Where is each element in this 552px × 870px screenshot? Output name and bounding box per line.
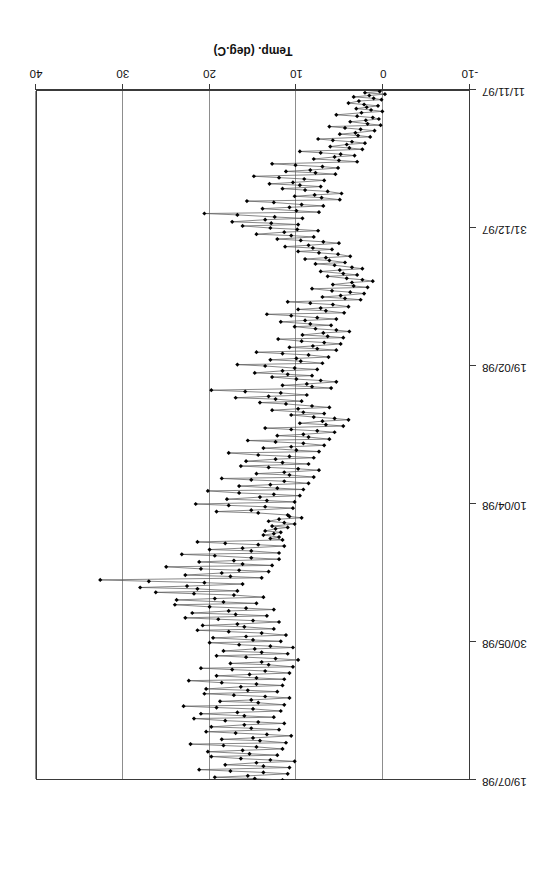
data-point bbox=[306, 435, 310, 439]
data-point bbox=[282, 677, 286, 681]
data-point bbox=[194, 502, 198, 506]
data-point bbox=[234, 396, 238, 400]
data-point bbox=[249, 508, 253, 512]
temperature-tick-label: 20 bbox=[190, 68, 230, 80]
data-point bbox=[273, 527, 277, 531]
data-point bbox=[330, 247, 334, 251]
data-point bbox=[303, 257, 307, 261]
data-point bbox=[359, 127, 363, 131]
data-point bbox=[230, 668, 234, 672]
data-point bbox=[324, 309, 328, 313]
data-point bbox=[360, 278, 364, 282]
data-point bbox=[201, 623, 205, 627]
data-point bbox=[322, 340, 326, 344]
data-point bbox=[306, 353, 310, 357]
date-tick-label: 11/11/97 bbox=[482, 86, 552, 98]
data-point bbox=[256, 543, 260, 547]
data-point bbox=[232, 558, 236, 562]
data-point bbox=[277, 620, 281, 624]
data-point bbox=[254, 761, 258, 765]
data-point bbox=[277, 557, 281, 561]
data-point bbox=[138, 585, 142, 589]
data-point bbox=[287, 696, 291, 700]
data-point bbox=[341, 271, 345, 275]
data-point bbox=[291, 645, 295, 649]
data-point bbox=[267, 519, 271, 523]
data-point bbox=[287, 765, 291, 769]
data-point bbox=[299, 359, 303, 363]
data-point bbox=[261, 446, 265, 450]
data-point bbox=[319, 151, 323, 155]
chart-figure: -10010203040 11/11/9731/12/9719/02/9810/… bbox=[0, 0, 552, 870]
data-point bbox=[372, 129, 376, 133]
data-point bbox=[337, 241, 341, 245]
data-point bbox=[218, 699, 222, 703]
data-point bbox=[347, 329, 351, 333]
data-point bbox=[245, 199, 249, 203]
data-point bbox=[98, 578, 102, 582]
data-point bbox=[301, 487, 305, 491]
data-point bbox=[315, 316, 319, 320]
data-point bbox=[362, 102, 366, 106]
data-point bbox=[319, 306, 323, 310]
data-point bbox=[263, 505, 267, 509]
data-point bbox=[377, 117, 381, 121]
data-point bbox=[272, 492, 276, 496]
data-point bbox=[357, 99, 361, 103]
data-point bbox=[286, 772, 290, 776]
data-point bbox=[310, 287, 314, 291]
data-point bbox=[223, 763, 227, 767]
data-point bbox=[332, 263, 336, 267]
data-point bbox=[242, 625, 246, 629]
date-tick bbox=[469, 365, 476, 366]
data-point bbox=[199, 567, 203, 571]
data-point bbox=[313, 327, 317, 331]
data-point bbox=[256, 453, 260, 457]
data-point bbox=[295, 227, 299, 231]
data-point bbox=[336, 166, 340, 170]
data-point bbox=[369, 108, 373, 112]
data-point bbox=[237, 643, 241, 647]
data-point bbox=[251, 619, 255, 623]
data-point bbox=[240, 546, 244, 550]
data-point bbox=[286, 652, 290, 656]
data-point bbox=[197, 560, 201, 564]
data-point bbox=[319, 378, 323, 382]
data-point bbox=[315, 429, 319, 433]
data-point bbox=[195, 587, 199, 591]
data-point bbox=[330, 289, 334, 293]
data-point bbox=[328, 144, 332, 148]
data-point bbox=[287, 473, 291, 477]
data-point bbox=[365, 285, 369, 289]
data-point bbox=[326, 355, 330, 359]
data-point bbox=[327, 405, 331, 409]
data-point bbox=[227, 451, 231, 455]
data-point bbox=[346, 101, 350, 105]
data-point bbox=[326, 189, 330, 193]
data-point bbox=[175, 598, 179, 602]
data-point bbox=[265, 312, 269, 316]
data-point bbox=[195, 540, 199, 544]
data-point bbox=[272, 715, 276, 719]
data-point bbox=[339, 342, 343, 346]
data-point bbox=[312, 456, 316, 460]
data-point bbox=[275, 237, 279, 241]
data-point bbox=[206, 750, 210, 754]
data-point bbox=[263, 529, 267, 533]
data-point bbox=[282, 521, 286, 525]
data-point bbox=[280, 383, 284, 387]
data-point bbox=[332, 155, 336, 159]
data-point bbox=[213, 596, 217, 600]
data-point bbox=[339, 152, 343, 156]
data-point bbox=[227, 630, 231, 634]
data-point bbox=[237, 484, 241, 488]
data-point bbox=[296, 658, 300, 662]
data-point bbox=[287, 205, 291, 209]
data-point bbox=[220, 476, 224, 480]
data-point bbox=[339, 191, 343, 195]
data-point bbox=[258, 495, 262, 499]
data-point bbox=[261, 595, 265, 599]
data-point bbox=[204, 687, 208, 691]
data-point bbox=[154, 590, 158, 594]
data-point bbox=[284, 633, 288, 637]
